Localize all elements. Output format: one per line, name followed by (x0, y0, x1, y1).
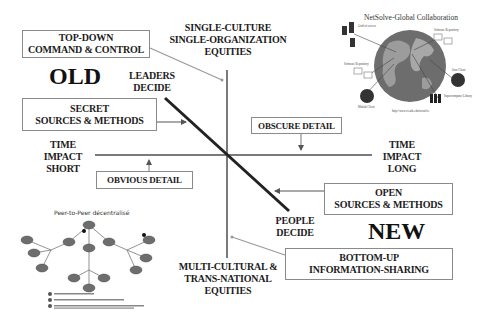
globe-node-label: Software Repository (434, 28, 459, 32)
globe-node-label: Java Client (452, 68, 465, 72)
right-axis-line-2: IMPACT (377, 151, 427, 163)
globe-node-label: Grid of servers (358, 24, 376, 28)
globe-footer: http://www.cs.utk.edu/netsolve (392, 109, 429, 113)
left-axis-line-3: SHORT (38, 163, 88, 175)
open-sources-box: OPEN SOURCES & METHODS (324, 183, 453, 215)
left-axis-line-1: TIME (38, 139, 88, 151)
secret-line-2: SOURCES & METHODS (35, 115, 143, 127)
right-axis-label: TIME IMPACT LONG (377, 139, 427, 175)
p2p-legend-item: Routage de requêtes (54, 297, 78, 301)
top-down-box: TOP-DOWN COMMAND & CONTROL (22, 30, 150, 58)
bottom-up-line-2: INFORMATION-SHARING (309, 264, 429, 276)
obscure-detail-text: OBSCURE DETAIL (258, 120, 335, 132)
new-label: NEW (368, 218, 425, 244)
people-decide-label: PEOPLE DECIDE (270, 215, 320, 239)
old-label: OLD (49, 63, 101, 89)
left-axis-label: TIME IMPACT SHORT (38, 139, 88, 175)
top-axis-label: SINGLE-CULTURE SINGLE-ORGANIZATION EQUIT… (158, 22, 298, 58)
top-down-line-1: TOP-DOWN (59, 32, 113, 44)
decide-line-2: DECIDE (270, 227, 320, 239)
right-axis-line-3: LONG (377, 163, 427, 175)
obscure-detail-box: OBSCURE DETAIL (251, 117, 342, 134)
bottom-up-line-1: BOTTOM-UP (339, 252, 399, 264)
supercomputer-library-icon (430, 94, 441, 103)
bottom-axis-line-2: TRANS-NATIONAL (158, 273, 298, 285)
leaders-decide-label: LEADERS DECIDE (122, 70, 182, 94)
p2p-network-illustration (14, 208, 159, 310)
globe-node-label: Supercomputer Library (444, 94, 472, 98)
java-client-icon (451, 73, 465, 87)
secret-line-1: SECRET (70, 103, 109, 115)
bottom-up-connector (232, 237, 285, 255)
top-axis-line-2: SINGLE-ORGANIZATION (158, 34, 298, 46)
netsolve-globe-inset: NetSolve-Global Collaboration (334, 8, 474, 113)
left-axis-line-2: IMPACT (38, 151, 88, 163)
p2p-legend-item: Transfert de fichiers (54, 303, 78, 307)
people-line: PEOPLE (270, 215, 320, 227)
p2p-inset: Peer-to-Peer décentralisé (14, 208, 159, 310)
p2p-legend-item: Ordinateur en réseau (54, 291, 79, 295)
top-axis-line-1: SINGLE-CULTURE (158, 22, 298, 34)
top-axis-line-3: EQUITIES (158, 46, 298, 58)
top-down-line-2: COMMAND & CONTROL (28, 44, 144, 56)
bottom-axis-line-1: MULTI-CULTURAL & (158, 261, 298, 273)
bottom-axis-label: MULTI-CULTURAL & TRANS-NATIONAL EQUITIES (158, 261, 298, 297)
server-icon (342, 22, 355, 47)
globe-node-label: Software Repository (344, 62, 369, 66)
leaders-line: LEADERS (122, 70, 182, 82)
decide-line: DECIDE (122, 82, 182, 94)
obvious-detail-text: OBVIOUS DETAIL (107, 174, 182, 186)
open-line-2: SOURCES & METHODS (334, 199, 442, 211)
right-axis-line-1: TIME (377, 139, 427, 151)
bottom-axis-line-3: EQUITIES (158, 285, 298, 297)
open-line-1: OPEN (375, 187, 402, 199)
secret-box: SECRET SOURCES & METHODS (22, 98, 157, 131)
bottom-up-box: BOTTOM-UP INFORMATION-SHARING (285, 248, 453, 280)
globe-node-label: Matlab Client (358, 105, 375, 109)
peer-node-icon (21, 221, 155, 292)
obvious-detail-box: OBVIOUS DETAIL (96, 171, 193, 189)
matlab-client-icon (360, 89, 374, 103)
